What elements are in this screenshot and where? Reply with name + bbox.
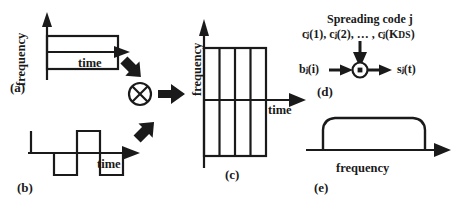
panel-e-id: (e) (314, 180, 328, 196)
panel-b-id: (b) (17, 180, 33, 196)
panel-d: Spreading code j cⱼ(1), cⱼ(2), … , cⱼ(KD… (296, 0, 465, 106)
panel-b-x-axis (28, 146, 140, 160)
circled-times-icon (129, 83, 151, 105)
panel-c-y-axis-label: frequency (190, 43, 205, 96)
panel-e-spectrum-curve (323, 118, 425, 150)
panel-d-output-label: sⱼ(t) (397, 62, 416, 77)
arrow-down-right-icon (117, 53, 148, 84)
figure-root: frequency time (a) time (b) (0, 0, 465, 206)
panel-a-y-axis-label: frequency (14, 33, 29, 86)
panel-b-x-axis-label: time (97, 157, 121, 172)
panel-c-grid-lines (220, 48, 251, 156)
panel-e: frequency (e) (296, 106, 465, 206)
panel-a-x-axis-label: time (78, 56, 102, 71)
panel-a-id: (a) (10, 80, 25, 96)
panel-d-code-title: Spreading code j (327, 12, 413, 27)
panel-d-graphic (296, 38, 465, 88)
panel-d-input-arrow (329, 65, 353, 76)
panel-d-input-label: bⱼ(i) (299, 62, 319, 77)
panel-c-x-axis-label: time (268, 103, 292, 118)
arrow-up-right-icon (130, 115, 161, 146)
panel-e-x-axis-label: frequency (336, 161, 389, 176)
panel-c-id: (c) (225, 167, 239, 183)
panel-d-id: (d) (317, 84, 333, 100)
panel-e-x-axis (306, 143, 451, 157)
multiplier-node-icon (353, 63, 368, 78)
panel-d-output-arrow (368, 65, 392, 76)
